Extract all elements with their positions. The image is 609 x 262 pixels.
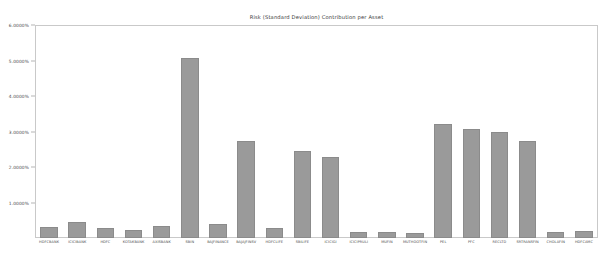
y-axis-tick-label: 4.0000% (9, 94, 29, 99)
x-axis-tick-label: PFC (468, 240, 475, 245)
bar-slot (463, 25, 480, 238)
bar[interactable] (153, 226, 170, 238)
bar-slot (434, 25, 451, 238)
bar-slot (97, 25, 114, 238)
bar-slot (519, 25, 536, 238)
bar[interactable] (294, 151, 311, 238)
bar[interactable] (378, 232, 395, 238)
y-axis-tick-label: 1.0000% (9, 200, 29, 205)
bar-slot (294, 25, 311, 238)
bar[interactable] (491, 132, 508, 239)
x-axis-tick-label: BAJFINANCE (207, 240, 229, 245)
bar[interactable] (434, 124, 451, 238)
bar-slot (153, 25, 170, 238)
bar-slot (575, 25, 592, 238)
bar[interactable] (68, 222, 85, 238)
bar-slot (266, 25, 283, 238)
bar[interactable] (463, 129, 480, 238)
bar-slot (68, 25, 85, 238)
x-axis-tick-label: HDFCBANK (39, 240, 59, 245)
bar[interactable] (350, 232, 367, 238)
bar-slot (406, 25, 423, 238)
x-axis-tick-label: ICICIGI (325, 240, 337, 245)
bar[interactable] (209, 224, 226, 238)
bar-slot (322, 25, 339, 238)
bar-slot (491, 25, 508, 238)
y-axis-tick-label: 3.0000% (9, 129, 29, 134)
risk-contribution-bar-chart: Risk (Standard Deviation) Contribution p… (0, 0, 609, 262)
y-axis-tick-label: 6.0000% (9, 23, 29, 28)
bar-slot (209, 25, 226, 238)
x-axis-tick-label: ICICIBANK (68, 240, 86, 245)
y-axis: 6.0000%5.0000%4.0000%3.0000%2.0000%1.000… (0, 0, 35, 262)
bar-slot (350, 25, 367, 238)
bar[interactable] (237, 141, 254, 238)
bar-slot (181, 25, 198, 238)
bar[interactable] (40, 227, 57, 238)
bar[interactable] (181, 58, 198, 238)
bar[interactable] (519, 141, 536, 238)
bar[interactable] (406, 233, 423, 238)
x-axis-tick-label: HDFC (100, 240, 110, 245)
bar[interactable] (97, 228, 114, 238)
bar-slot (40, 25, 57, 238)
x-axis-tick-label: MUTHOOTFIN (403, 240, 427, 245)
x-axis-tick-label: RECLTD (493, 240, 507, 245)
y-axis-tick-label: 2.0000% (9, 165, 29, 170)
bar[interactable] (322, 157, 339, 238)
bar-slot (547, 25, 564, 238)
x-axis-tick-label: SBILIFE (296, 240, 309, 245)
x-axis-tick-label: PEL (440, 240, 446, 245)
x-axis: HDFCBANKICICIBANKHDFCKOTAKBANKAXISBANKSB… (35, 240, 598, 258)
x-axis-tick-label: MUFIN (381, 240, 393, 245)
bar[interactable] (125, 230, 142, 238)
bar-slot (378, 25, 395, 238)
x-axis-tick-label: SRTRANSFIN (517, 240, 539, 245)
bar[interactable] (547, 232, 564, 238)
bar-slot (237, 25, 254, 238)
x-axis-tick-label: HDFCAMC (575, 240, 593, 245)
chart-title: Risk (Standard Deviation) Contribution p… (35, 14, 598, 21)
y-axis-tick-label: 5.0000% (9, 58, 29, 63)
x-axis-tick-label: KOTAKBANK (123, 240, 145, 245)
x-axis-tick-label: AXISBANK (153, 240, 171, 245)
bar[interactable] (575, 231, 592, 238)
bar-slot (125, 25, 142, 238)
bar[interactable] (266, 228, 283, 238)
x-axis-tick-label: SBIN (186, 240, 194, 245)
x-axis-tick-label: CHOLAFIN (547, 240, 565, 245)
x-axis-tick-label: BAJAJFINSV (236, 240, 256, 245)
bars-layer (35, 25, 598, 238)
x-axis-tick-label: ICICIPRULI (349, 240, 368, 245)
x-axis-tick-label: HDFCLIFE (266, 240, 283, 245)
